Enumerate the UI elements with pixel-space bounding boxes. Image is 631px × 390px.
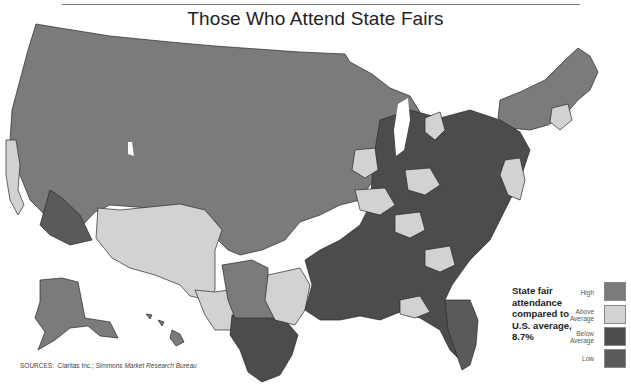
legend-label: High <box>554 289 594 296</box>
legend-swatch-above-average <box>604 305 626 324</box>
region-new-england-high <box>498 48 598 130</box>
region-hawaii-islands <box>146 314 164 326</box>
legend-item-above-average: AboveAverage <box>560 304 630 324</box>
legend-item-high: High <box>560 282 630 302</box>
legend-swatch-high <box>604 282 626 301</box>
region-alaska-high <box>35 278 118 350</box>
legend-label: Low <box>554 355 594 362</box>
region-new-england-above <box>550 104 572 130</box>
sources-prefix: SOURCES: <box>20 362 54 369</box>
legend-label: AboveAverage <box>554 308 594 322</box>
legend-item-below-average: BelowAverage <box>560 326 630 346</box>
legend-swatch-low <box>604 349 626 368</box>
legend-swatch-below-average <box>604 327 626 346</box>
region-southwest-above <box>96 204 222 300</box>
region-florida-low <box>445 300 478 370</box>
legend-item-low: Low <box>560 348 630 368</box>
sources-claritas: Claritas Inc.; <box>58 362 94 369</box>
region-hawaii-high <box>170 330 184 346</box>
sources-credit: SOURCES: Claritas Inc.; Simmons Market R… <box>20 362 197 369</box>
sources-simmons: Simmons Market Research Bureau <box>96 362 197 369</box>
region-texas-below <box>230 315 298 382</box>
legend-label: BelowAverage <box>554 330 594 344</box>
